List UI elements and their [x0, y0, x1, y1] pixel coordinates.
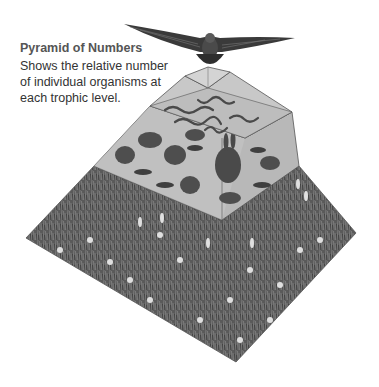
pyramid-illustration — [0, 0, 379, 387]
hawk-icon — [124, 24, 295, 64]
